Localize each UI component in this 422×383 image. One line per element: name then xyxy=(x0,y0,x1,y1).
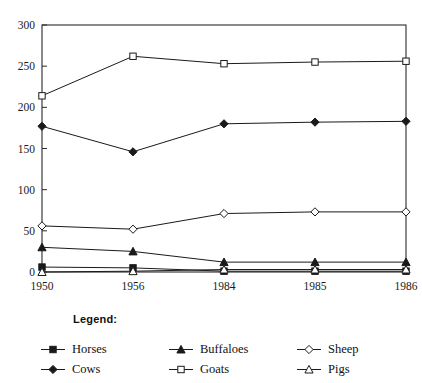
legend-item-pigs[interactable]: Pigs xyxy=(296,362,420,377)
legend-item-label: Horses xyxy=(72,342,107,357)
y-tick-label: 200 xyxy=(18,101,36,113)
y-tick-label: 150 xyxy=(18,143,36,155)
livestock-line-chart: 050100150200250300 19501956198419851986 … xyxy=(0,0,422,383)
data-point-filled-diamond xyxy=(49,365,57,373)
data-point-open-square xyxy=(39,93,45,99)
data-point-open-diamond xyxy=(402,208,410,216)
legend-item-sheep[interactable]: Sheep xyxy=(296,342,420,357)
data-point-open-diamond xyxy=(220,209,228,217)
data-point-open-square xyxy=(178,366,184,372)
legend-marker-filled-diamond-icon xyxy=(40,364,66,375)
data-point-open-diamond xyxy=(129,225,137,233)
data-point-open-diamond xyxy=(38,222,46,230)
y-tick-label: 100 xyxy=(18,184,36,196)
data-point-open-square xyxy=(221,60,227,66)
legend-item-label: Goats xyxy=(200,362,229,377)
data-point-open-square xyxy=(312,59,318,65)
legend-heading: Legend: xyxy=(73,313,117,325)
legend: HorsesBuffaloesSheepCowsGoatsPigs xyxy=(40,339,420,379)
legend-marker-filled-square-icon xyxy=(40,344,66,355)
series-goats xyxy=(39,53,409,99)
x-axis-tick-labels: 19501956198419851986 xyxy=(31,280,418,292)
legend-item-cows[interactable]: Cows xyxy=(40,362,168,377)
data-point-open-square xyxy=(130,53,136,59)
legend-item-goats[interactable]: Goats xyxy=(168,362,296,377)
legend-item-label: Sheep xyxy=(328,342,359,357)
legend-marker-open-square-icon xyxy=(168,364,194,375)
legend-item-horses[interactable]: Horses xyxy=(40,342,168,357)
data-point-open-square xyxy=(403,58,409,64)
x-tick-label: 1986 xyxy=(395,280,418,292)
legend-item-label: Buffaloes xyxy=(200,342,248,357)
y-tick-label: 300 xyxy=(18,19,36,31)
data-point-filled-diamond xyxy=(129,148,137,156)
y-tick-label: 250 xyxy=(18,60,36,72)
x-tick-label: 1984 xyxy=(213,280,236,292)
data-point-filled-diamond xyxy=(38,122,46,130)
series-cows xyxy=(38,117,410,156)
legend-item-label: Cows xyxy=(72,362,100,377)
data-point-filled-diamond xyxy=(311,118,319,126)
legend-marker-open-triangle-icon xyxy=(296,364,322,375)
data-point-open-diamond xyxy=(311,208,319,216)
y-tick-label: 0 xyxy=(29,266,35,278)
data-series-layer xyxy=(38,53,410,275)
x-tick-label: 1956 xyxy=(122,280,145,292)
plot-area: 050100150200250300 19501956198419851986 xyxy=(0,0,422,300)
x-tick-label: 1950 xyxy=(31,280,54,292)
legend-item-label: Pigs xyxy=(328,362,350,377)
x-tick-label: 1985 xyxy=(304,280,327,292)
data-point-filled-diamond xyxy=(402,117,410,125)
legend-item-buffaloes[interactable]: Buffaloes xyxy=(168,342,296,357)
legend-marker-filled-triangle-icon xyxy=(168,344,194,355)
series-sheep xyxy=(38,208,410,233)
y-axis-tick-labels: 050100150200250300 xyxy=(18,19,47,278)
data-point-filled-diamond xyxy=(220,120,228,128)
series-buffaloes xyxy=(38,243,410,265)
data-point-open-diamond xyxy=(305,345,313,353)
legend-marker-open-diamond-icon xyxy=(296,344,322,355)
y-tick-label: 50 xyxy=(24,225,36,237)
data-point-filled-square xyxy=(50,346,56,352)
